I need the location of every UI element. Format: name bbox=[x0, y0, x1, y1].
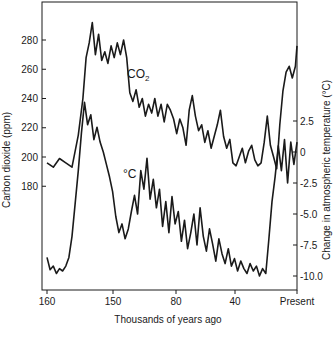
right-tick-label: 0 bbox=[300, 147, 306, 158]
temperature-series-label: °C bbox=[123, 167, 137, 181]
left-axis-title: Carbon dioxide (ppm) bbox=[1, 112, 12, 208]
right-tick-label: -5.0 bbox=[300, 209, 318, 220]
left-tick-label: 200 bbox=[21, 152, 38, 163]
left-tick-label: 280 bbox=[21, 35, 38, 46]
bottom-tick-label: 80 bbox=[170, 296, 182, 307]
right-axis-title: Change in atmospheric temperature (°C) bbox=[321, 80, 332, 260]
temperature-series-line bbox=[47, 102, 297, 276]
bottom-axis-ticks: 1601508040Present bbox=[39, 290, 315, 307]
right-tick-label: -10.0 bbox=[300, 271, 323, 282]
right-axis-ticks: 2.50-2.5-5.0-7.5-10.0 bbox=[293, 116, 323, 282]
bottom-axis-title: Thousands of years ago bbox=[114, 314, 222, 325]
co2-series-line bbox=[47, 23, 297, 169]
right-tick-label: -2.5 bbox=[300, 178, 318, 189]
bottom-tick-label: 40 bbox=[229, 296, 241, 307]
co2-temperature-chart: CO2 °C 180200220240260280 2.50-2.5-5.0-7… bbox=[0, 0, 336, 342]
left-tick-label: 220 bbox=[21, 122, 38, 133]
left-tick-label: 180 bbox=[21, 181, 38, 192]
right-tick-label: -7.5 bbox=[300, 240, 318, 251]
bottom-tick-label: 160 bbox=[39, 296, 56, 307]
right-tick-label: 2.5 bbox=[300, 116, 314, 127]
left-tick-label: 260 bbox=[21, 64, 38, 75]
left-tick-label: 240 bbox=[21, 93, 38, 104]
bottom-tick-label: 150 bbox=[105, 296, 122, 307]
bottom-tick-label: Present bbox=[280, 296, 315, 307]
co2-series-label: CO2 bbox=[127, 67, 150, 83]
